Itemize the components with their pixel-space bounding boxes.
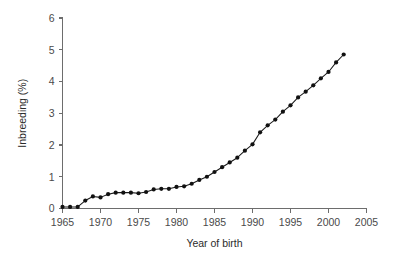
inbreeding-line-chart: 0123456 19651970197519801985199019952000…: [0, 0, 406, 254]
x-tick-label: 2000: [317, 216, 341, 228]
data-point-marker: [342, 52, 346, 56]
data-point-marker: [159, 187, 163, 191]
y-axis-tick-group: 0123456: [49, 12, 63, 215]
data-point-marker: [243, 149, 247, 153]
data-point-marker: [266, 123, 270, 127]
x-axis-tick-group: 196519701975198019851990199520002005: [51, 209, 379, 228]
data-point-marker: [258, 130, 262, 134]
y-axis-title: Inbreeding (%): [16, 79, 28, 148]
data-point-marker: [220, 165, 224, 169]
y-tick-label: 0: [49, 202, 55, 214]
data-point-marker: [106, 192, 110, 196]
data-point-marker: [311, 83, 315, 87]
data-point-marker: [334, 60, 338, 64]
data-point-marker: [281, 110, 285, 114]
data-point-markers: [60, 52, 345, 209]
x-tick-label: 1965: [51, 216, 75, 228]
data-point-marker: [288, 103, 292, 107]
data-point-marker: [205, 175, 209, 179]
data-point-marker: [121, 191, 125, 195]
x-tick-label: 1995: [279, 216, 303, 228]
data-point-marker: [273, 118, 277, 122]
y-tick-label: 5: [49, 44, 55, 56]
data-point-marker: [83, 198, 87, 202]
y-tick-label: 1: [49, 171, 55, 183]
data-point-marker: [68, 205, 72, 209]
data-point-marker: [98, 195, 102, 199]
x-tick-label: 2005: [355, 216, 379, 228]
data-point-marker: [228, 160, 232, 164]
data-point-marker: [326, 70, 330, 74]
data-point-marker: [182, 184, 186, 188]
data-point-marker: [319, 76, 323, 80]
data-point-marker: [136, 191, 140, 195]
data-point-marker: [304, 90, 308, 94]
data-point-marker: [296, 95, 300, 99]
chart-canvas: 0123456 19651970197519801985199019952000…: [0, 0, 406, 254]
data-point-marker: [190, 182, 194, 186]
data-point-marker: [167, 187, 171, 191]
data-point-marker: [144, 190, 148, 194]
y-tick-label: 2: [49, 139, 55, 151]
data-point-marker: [235, 156, 239, 160]
data-point-marker: [129, 191, 133, 195]
x-axis-title: Year of birth: [186, 237, 242, 249]
data-point-marker: [152, 187, 156, 191]
x-tick-label: 1975: [127, 216, 151, 228]
y-tick-label: 3: [49, 107, 55, 119]
x-tick-label: 1985: [203, 216, 227, 228]
y-tick-label: 6: [49, 12, 55, 24]
data-series-line: [63, 55, 344, 207]
x-tick-label: 1980: [165, 216, 189, 228]
y-tick-label: 4: [49, 75, 55, 87]
data-point-marker: [250, 142, 254, 146]
data-point-marker: [174, 185, 178, 189]
data-point-marker: [212, 170, 216, 174]
x-tick-label: 1990: [241, 216, 265, 228]
data-point-marker: [76, 205, 80, 209]
data-point-marker: [60, 205, 64, 209]
data-point-marker: [197, 178, 201, 182]
data-point-marker: [114, 191, 118, 195]
data-point-marker: [91, 194, 95, 198]
x-tick-label: 1970: [89, 216, 113, 228]
